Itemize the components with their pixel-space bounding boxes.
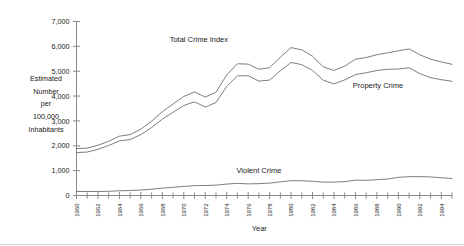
x-tick-label: 1986 xyxy=(353,203,359,217)
y-tick-label: 1,000 xyxy=(52,166,70,175)
y-axis-title-line: per xyxy=(41,99,52,108)
series-label-violent-crime: Violent Crime xyxy=(236,166,281,175)
chart-canvas: 01,0002,0003,0004,0005,0006,0007,000Esti… xyxy=(0,0,464,246)
series-labels-group: Total Crime IndexProperty CrimeViolent C… xyxy=(170,35,404,175)
x-tick-label: 1962 xyxy=(95,203,101,217)
y-tick-label: 0 xyxy=(66,191,70,200)
x-tick-label: 1990 xyxy=(396,203,402,217)
y-tick-label: 6,000 xyxy=(52,42,70,51)
y-axis-title-line: Number xyxy=(33,87,59,96)
x-tick-label: 1970 xyxy=(181,203,187,217)
series-label-total-crime-index: Total Crime Index xyxy=(170,35,229,44)
series-line-property-crime xyxy=(77,62,453,152)
crime-rate-line-chart: 01,0002,0003,0004,0005,0006,0007,000Esti… xyxy=(0,0,464,246)
series-label-property-crime: Property Crime xyxy=(353,81,403,90)
x-tick-label: 1968 xyxy=(160,203,166,217)
y-axis-title-line: Inhabitants xyxy=(28,125,64,134)
x-tick-label: 1982 xyxy=(310,203,316,217)
x-tick-label: 1980 xyxy=(288,203,294,217)
y-axis-title: EstimatedNumberper100,000Inhabitants xyxy=(28,74,64,133)
y-tick-label: 2,000 xyxy=(52,141,70,150)
x-tick-label: 1972 xyxy=(203,203,209,217)
y-axis-title-line: Estimated xyxy=(30,74,62,83)
series-line-violent-crime xyxy=(77,177,453,192)
x-tick-label: 1960 xyxy=(74,203,80,217)
x-tick-label: 1964 xyxy=(117,203,123,217)
x-tick-label: 1978 xyxy=(267,203,273,217)
x-tick-label: 1966 xyxy=(138,203,144,217)
x-tick-label: 1992 xyxy=(417,203,423,217)
y-tick-label: 7,000 xyxy=(52,17,70,26)
x-tick-label: 1988 xyxy=(374,203,380,217)
x-axis-title: Year xyxy=(252,224,268,233)
x-tick-label: 1976 xyxy=(246,203,252,217)
x-tick-label: 1994 xyxy=(439,203,445,217)
y-axis-ticks: 01,0002,0003,0004,0005,0006,0007,000 xyxy=(52,17,81,200)
series-line-total-crime-index xyxy=(77,48,453,149)
y-axis-title-line: 100,000 xyxy=(33,112,59,121)
x-tick-label: 1984 xyxy=(331,203,337,217)
x-tick-label: 1974 xyxy=(224,203,230,217)
